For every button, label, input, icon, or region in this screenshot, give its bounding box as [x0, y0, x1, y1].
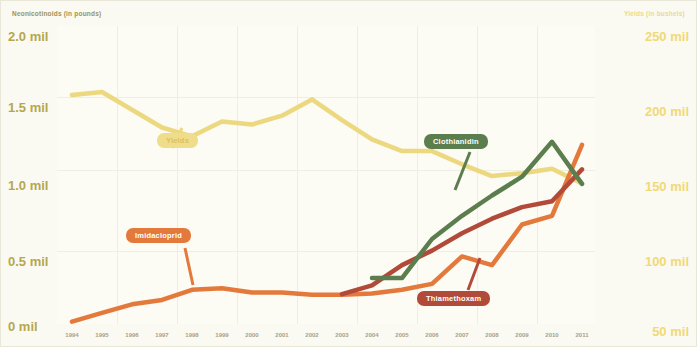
callout-clothianidin[interactable]: Clothianidin: [424, 134, 488, 149]
callout-stem-imidacloprid: [185, 248, 193, 285]
callout-thiamethoxam[interactable]: Thiamethoxam: [417, 291, 490, 306]
series-lines: [0, 0, 697, 347]
series-line-clothianidin: [372, 142, 582, 278]
callout-yields[interactable]: Yields: [157, 133, 198, 148]
callout-stem-thiamethoxam: [468, 258, 480, 290]
neonicotinoid-yield-chart: Neonicotinoids (in pounds) Yields (in bu…: [0, 0, 697, 347]
series-line-yields: [72, 92, 582, 184]
callout-stem-clothianidin: [455, 152, 470, 190]
series-line-thiamethoxam: [342, 169, 582, 294]
callout-imidacloprid[interactable]: Imidacloprid: [126, 228, 191, 243]
